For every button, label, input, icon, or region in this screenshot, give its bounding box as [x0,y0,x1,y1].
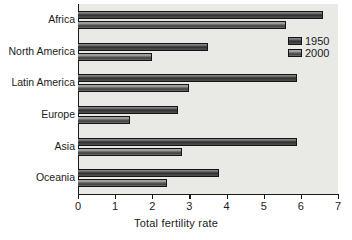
x-tick [264,194,265,199]
x-tick-label: 7 [335,200,341,212]
bar [78,138,297,146]
category-label-latin-america: Latin America [11,77,75,88]
x-tick [189,194,190,199]
legend-swatch-2000-icon [288,49,302,57]
x-tick-label: 1 [112,200,118,212]
x-tick-label: 5 [261,200,267,212]
x-tick-label: 4 [224,200,230,212]
legend-item-1950[interactable]: 1950 [288,36,329,46]
chart-legend: 1950 2000 [288,36,329,58]
x-tick-label: 6 [298,200,304,212]
x-tick-label: 0 [75,200,81,212]
bar [78,116,130,124]
legend-label-1950: 1950 [305,36,329,47]
legend-item-2000[interactable]: 2000 [288,48,329,58]
category-label-oceania: Oceania [36,172,75,183]
x-tick [227,194,228,199]
x-tick [152,194,153,199]
x-tick [301,194,302,199]
bar [78,43,208,51]
chart-figure: AfricaNorth AmericaLatin AmericaEuropeAs… [0,0,352,240]
x-tick [78,194,79,199]
bar [78,179,167,187]
bar [78,21,286,29]
legend-label-2000: 2000 [305,48,329,59]
bar [78,106,178,114]
x-axis-line [78,194,339,195]
category-label-africa: Africa [48,14,75,25]
category-label-north-america: North America [8,46,75,57]
plot-area [78,4,338,194]
category-label-europe: Europe [41,109,75,120]
x-tick [338,194,339,199]
x-axis-title: Total fertility rate [0,217,352,229]
bar [78,53,152,61]
x-tick-label: 3 [186,200,192,212]
bar [78,169,219,177]
bar [78,148,182,156]
legend-swatch-1950-icon [288,37,302,45]
x-tick-label: 2 [149,200,155,212]
x-tick [115,194,116,199]
bar [78,11,323,19]
bar [78,74,297,82]
bar [78,84,189,92]
category-label-asia: Asia [55,141,75,152]
